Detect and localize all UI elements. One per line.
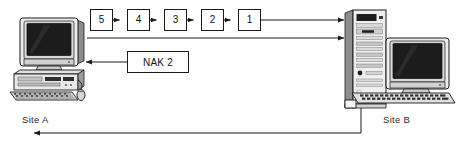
site-a-computer-graphic	[10, 18, 85, 101]
protocol-diagram: 5 4 3 2 1 NAK 2 Site A Site B	[0, 0, 467, 152]
frame-box-2[interactable]: 2	[201, 9, 224, 31]
frame-box-label: 3	[173, 15, 179, 25]
frame-box-5[interactable]: 5	[90, 9, 113, 31]
nak-box[interactable]: NAK 2	[127, 51, 189, 73]
frame-box-4[interactable]: 4	[127, 9, 150, 31]
frame-box-label: 4	[136, 15, 142, 25]
site-b-computer-graphic	[345, 10, 455, 108]
site-a-label: Site A	[22, 114, 49, 125]
nak-box-label: NAK 2	[143, 57, 173, 68]
frame-box-label: 2	[210, 15, 216, 25]
site-b-label: Site B	[383, 114, 410, 125]
diagram-canvas	[0, 0, 467, 152]
frame-box-label: 1	[247, 15, 253, 25]
frame-box-3[interactable]: 3	[164, 9, 187, 31]
frame-box-1[interactable]: 1	[238, 9, 261, 31]
frame-box-label: 5	[99, 15, 105, 25]
